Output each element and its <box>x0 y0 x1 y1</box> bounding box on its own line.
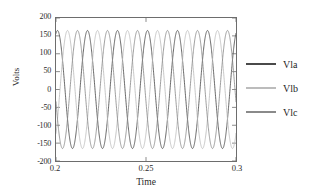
legend-label: Vlc <box>283 107 297 118</box>
y-tick-label: 150 <box>16 31 51 39</box>
y-tick-label: 50 <box>16 67 51 75</box>
legend-line-swatch <box>246 111 276 112</box>
plot-area <box>55 17 237 162</box>
x-tick-label: 0.3 <box>232 164 243 173</box>
waveform-canvas <box>56 18 236 161</box>
legend-item: Vlc <box>246 100 315 124</box>
legend-item: Vla <box>246 52 315 76</box>
legend-label: Vlb <box>283 83 298 94</box>
y-axis-tick-labels: 200150100500-50-100-150-200 <box>16 0 51 194</box>
y-tick-label: -200 <box>16 158 51 166</box>
y-tick-label: 0 <box>16 86 51 94</box>
legend-item: Vlb <box>246 76 315 100</box>
y-tick-label: 100 <box>16 49 51 57</box>
y-tick-label: 200 <box>16 13 51 21</box>
legend-line-swatch <box>246 87 276 88</box>
chart-legend: VlaVlbVlc <box>246 52 315 124</box>
x-tick-label: 0.25 <box>139 164 154 173</box>
legend-label: Vla <box>283 59 297 70</box>
y-tick-label: -150 <box>16 140 51 148</box>
chart-figure: Volts 200150100500-50-100-150-200 Time V… <box>0 0 315 194</box>
y-tick-label: -50 <box>16 104 51 112</box>
x-axis-title: Time <box>55 177 237 187</box>
y-tick-label: -100 <box>16 122 51 130</box>
legend-line-swatch <box>246 63 276 64</box>
x-tick-label: 0.2 <box>50 164 61 173</box>
